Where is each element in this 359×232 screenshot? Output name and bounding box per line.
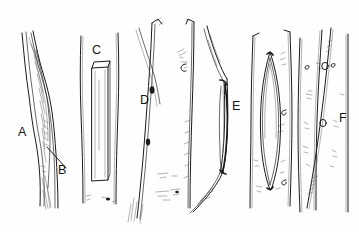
figure-illustration: A B C D E F: [0, 0, 359, 232]
figure-background: [0, 0, 359, 232]
panel-label-f: F: [339, 111, 347, 125]
panel-label-c: C: [92, 43, 101, 57]
panel-label-d: D: [140, 93, 149, 107]
panel-label-a: A: [18, 125, 27, 139]
panel-label-b: B: [58, 163, 67, 177]
figure-root: A B C D E F: [0, 0, 359, 232]
panel-label-e: E: [232, 99, 241, 113]
